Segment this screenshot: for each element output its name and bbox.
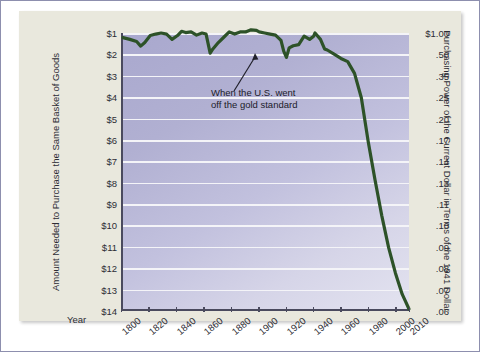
y-axis-left-ticks: $1$2$3$4$5$6$7$8$9$10$11$12$13$14 (75, 33, 117, 311)
y-axis-left-tick-label: $10 (101, 220, 117, 231)
figure-frame: Amount Needed to Purchase the Same Baske… (0, 0, 480, 352)
x-axis-tickmark (121, 307, 122, 312)
y-axis-left-tick-label: $3 (106, 70, 117, 81)
x-axis-tickmark (409, 307, 410, 312)
y-axis-right-title-text: Purchasing Power of the Current Dollar i… (441, 30, 454, 311)
x-axis-tickmark (231, 307, 232, 312)
annotation-label: When the U.S. went off the gold standard (211, 87, 297, 111)
y-axis-left-tick-label: $6 (106, 134, 117, 145)
annotation-line-2: off the gold standard (211, 99, 297, 111)
x-axis-tickmark (148, 307, 149, 312)
y-axis-left-tick-label: $5 (106, 113, 117, 124)
x-axis-tickmark (258, 307, 259, 312)
x-axis-ticks: 1800182018401860188019001920194019601980… (121, 313, 411, 352)
y-axis-right-title: Purchasing Power of the Current Dollar i… (433, 41, 461, 301)
x-axis-tickmark (395, 307, 396, 312)
x-axis-tickmark (203, 307, 204, 312)
y-axis-left-tick-label: $4 (106, 92, 117, 103)
annotation-line-1: When the U.S. went (211, 87, 297, 99)
y-axis-left-tick-label: $9 (106, 199, 117, 210)
y-axis-left-tick-label: $2 (106, 49, 117, 60)
x-axis-label: Year (67, 314, 86, 325)
x-axis-tickmark (313, 307, 314, 312)
y-axis-left-title: Amount Needed to Purchase the Same Baske… (35, 33, 75, 311)
y-axis-left-tick-label: $1 (106, 28, 117, 39)
y-axis-left-tick-label: $14 (101, 306, 117, 317)
y-axis-left-tick-label: $8 (106, 177, 117, 188)
x-axis-tickmark (368, 307, 369, 312)
x-axis-tickmark (286, 307, 287, 312)
y-axis-left-tick-label: $12 (101, 263, 117, 274)
x-axis-tickmark (176, 307, 177, 312)
y-axis-left-tick-label: $7 (106, 156, 117, 167)
y-axis-left-tick-label: $13 (101, 284, 117, 295)
y-axis-left-tick-label: $11 (102, 241, 117, 252)
chart-figure-panel: Amount Needed to Purchase the Same Baske… (19, 11, 461, 321)
x-axis-tickmarks (121, 306, 409, 312)
x-axis-tickmark (340, 307, 341, 312)
y-axis-left-title-text: Amount Needed to Purchase the Same Baske… (49, 53, 62, 291)
